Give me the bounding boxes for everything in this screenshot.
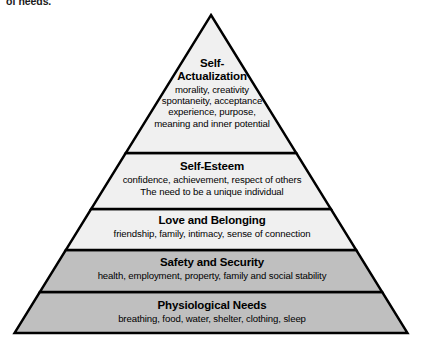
tier-description-self-actualization: morality, creativity spontaneity, accept… — [0, 84, 424, 129]
tier-label-love-and-belonging: Love and Belonging friendship, family, i… — [0, 214, 424, 240]
tier-title-self-actualization: Self- Actualization — [0, 57, 424, 82]
maslow-pyramid: Self- Actualization morality, creativity… — [0, 0, 424, 350]
tier-label-safety-and-security: Safety and Security health, employment, … — [0, 256, 424, 282]
tier-label-self-actualization: Self- Actualization morality, creativity… — [0, 57, 424, 129]
tier-description-physiological-needs: breathing, food, water, shelter, clothin… — [0, 313, 424, 324]
tier-title-self-esteem: Self-Esteem — [0, 160, 424, 173]
tier-description-self-esteem: confidence, achievement, respect of othe… — [0, 174, 424, 197]
pyramid-diagram-page: of needs. Self- Actualization morality, … — [0, 0, 424, 350]
tier-title-love-and-belonging: Love and Belonging — [0, 214, 424, 227]
tier-title-safety-and-security: Safety and Security — [0, 256, 424, 269]
tier-description-love-and-belonging: friendship, family, intimacy, sense of c… — [0, 228, 424, 239]
tier-title-physiological-needs: Physiological Needs — [0, 299, 424, 312]
tier-description-safety-and-security: health, employment, property, family and… — [0, 270, 424, 281]
tier-label-physiological-needs: Physiological Needs breathing, food, wat… — [0, 299, 424, 325]
tier-label-self-esteem: Self-Esteem confidence, achievement, res… — [0, 160, 424, 197]
